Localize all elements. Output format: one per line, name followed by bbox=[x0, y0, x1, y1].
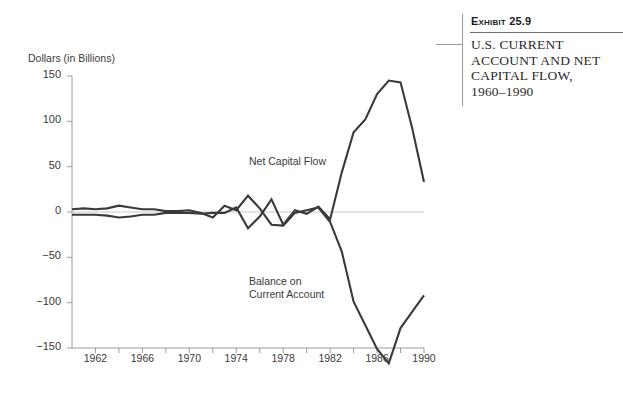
exhibit-header: Exhibit 25.9 U.S. CURRENT ACCOUNT AND NE… bbox=[462, 14, 623, 106]
chart-container: Dollars (in Billions) 150100500−50−100−1… bbox=[0, 0, 470, 398]
data-series-group bbox=[72, 81, 424, 364]
exhibit-title-line-3: CAPITAL FLOW, bbox=[471, 68, 623, 84]
exhibit-horizontal-rule bbox=[436, 44, 462, 45]
exhibit-number: Exhibit 25.9 bbox=[471, 15, 531, 27]
exhibit-title: U.S. CURRENT ACCOUNT AND NET CAPITAL FLO… bbox=[471, 37, 623, 99]
y-tick-label: 50 bbox=[27, 159, 61, 171]
series-line-balance-on-current-account bbox=[72, 196, 424, 364]
x-tick-label: 1966 bbox=[122, 352, 162, 364]
y-tick-label: −150 bbox=[27, 340, 61, 352]
exhibit-title-line-2: ACCOUNT AND NET bbox=[471, 53, 623, 69]
y-tick-label: −50 bbox=[27, 249, 61, 261]
x-tick-label: 1970 bbox=[169, 352, 209, 364]
x-tick-label: 1982 bbox=[310, 352, 350, 364]
x-tick-label: 1990 bbox=[404, 352, 444, 364]
y-tick-label: 100 bbox=[27, 113, 61, 125]
y-tick-label: 0 bbox=[27, 204, 61, 216]
x-tick-label: 1986 bbox=[357, 352, 397, 364]
x-tick-label: 1978 bbox=[263, 352, 303, 364]
x-tick-label: 1962 bbox=[75, 352, 115, 364]
series-label-balance-on-current-account: Balance on Current Account bbox=[249, 275, 324, 300]
exhibit-title-line-4: 1960–1990 bbox=[471, 84, 623, 100]
chart-plot bbox=[0, 0, 470, 398]
exhibit-underline bbox=[470, 32, 623, 33]
y-axis-ticks bbox=[67, 76, 72, 348]
exhibit-title-line-1: U.S. CURRENT bbox=[471, 37, 623, 53]
y-tick-label: −100 bbox=[27, 295, 61, 307]
y-tick-label: 150 bbox=[27, 68, 61, 80]
series-label-net-capital-flow: Net Capital Flow bbox=[249, 155, 326, 168]
x-tick-label: 1974 bbox=[216, 352, 256, 364]
exhibit-vertical-rule bbox=[462, 14, 463, 106]
